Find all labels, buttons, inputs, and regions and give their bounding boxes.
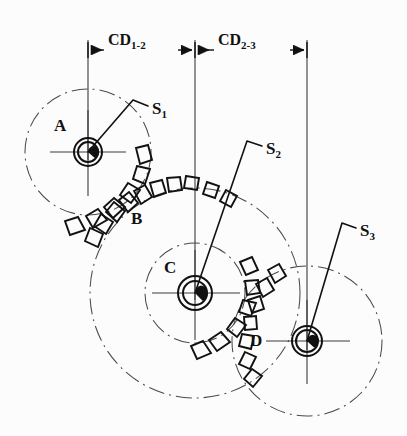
leader-shaft-1 <box>88 100 148 152</box>
leader-shaft-2 <box>195 141 262 293</box>
leader-shaft-3 <box>307 223 356 341</box>
shaft-label-s3: S3 <box>360 222 375 242</box>
shaft-bores <box>88 146 318 347</box>
dimension-label-cd-2-3: CD2-3 <box>218 32 256 51</box>
gear-label-d: D <box>250 332 262 349</box>
shaft-label-s2-subscript: 2 <box>275 148 281 160</box>
hubs <box>74 138 322 356</box>
dimension-label-cd-1-2-subscript: 1-2 <box>131 39 146 51</box>
gear-label-b: B <box>131 210 142 227</box>
shaft-label-s1: S1 <box>152 100 167 120</box>
shaft-label-s1-subscript: 1 <box>161 108 167 120</box>
shaft-leaders <box>88 100 356 341</box>
dimension-label-cd-1-2-base: CD <box>108 31 131 48</box>
gear-label-c: C <box>164 259 176 276</box>
gear-train-figure: CD1-2 CD2-3 A B C D S1 S2 S3 <box>0 0 407 436</box>
shaft-label-s3-subscript: 3 <box>369 230 375 242</box>
gear-label-a: A <box>54 117 66 134</box>
figure-canvas <box>0 0 407 436</box>
dimension-label-cd-2-3-subscript: 2-3 <box>241 39 256 51</box>
dimension-label-cd-1-2: CD1-2 <box>108 32 146 51</box>
shaft-label-s2: S2 <box>266 140 281 160</box>
dimension-label-cd-2-3-base: CD <box>218 31 241 48</box>
pitch-circles <box>25 89 382 416</box>
